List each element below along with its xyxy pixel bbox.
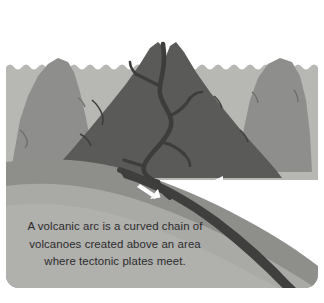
- figure-root: A volcanic arc is a curved chain of volc…: [0, 0, 324, 303]
- volcanic-arc-illustration: [0, 0, 324, 303]
- panel-scene: [6, 6, 318, 303]
